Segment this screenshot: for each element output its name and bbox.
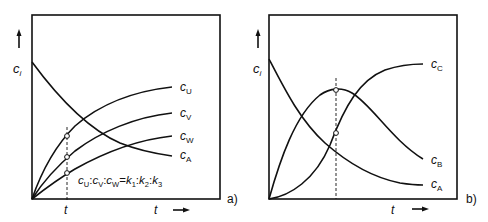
- curve-cA: [269, 59, 423, 185]
- label-cC: cC: [431, 57, 443, 73]
- x-axis-label: t: [154, 203, 158, 217]
- panel-b: ci cC cB cA t b): [253, 15, 477, 217]
- curve-cC: [269, 64, 423, 199]
- marker-cC-inflection: [334, 131, 339, 136]
- marker-cU: [65, 134, 70, 139]
- label-cA: cA: [180, 148, 192, 164]
- y-axis-arrow-icon: [256, 29, 261, 48]
- ratio-formula: cU:cV:cW=k1:k2:k3: [78, 174, 162, 189]
- panel-b-tag: b): [466, 192, 477, 206]
- curve-cW: [32, 136, 172, 199]
- panel-a-tag: a): [227, 192, 238, 206]
- curve-cA: [32, 62, 172, 156]
- label-cA: cA: [431, 177, 443, 193]
- x-axis-arrow-icon: [173, 208, 190, 213]
- x-axis-arrow-icon: [412, 207, 429, 212]
- marker-time-label: t: [64, 203, 68, 217]
- marker-cW: [65, 171, 70, 176]
- y-axis-label: ci: [253, 61, 262, 78]
- x-axis-label: t: [391, 203, 395, 217]
- label-cU: cU: [180, 80, 192, 96]
- panel-b-frame: [269, 15, 457, 199]
- panel-a-frame: [32, 15, 220, 199]
- marker-cV: [65, 155, 70, 160]
- label-cB: cB: [431, 153, 442, 169]
- label-cW: cW: [180, 129, 194, 145]
- label-cV: cV: [180, 106, 192, 122]
- kinetics-diagram: ci cU cV cW cA cU:cV:cW=k1:k2:k3 t t a): [0, 0, 488, 222]
- marker-cB-max: [334, 88, 339, 93]
- panel-a: ci cU cV cW cA cU:cV:cW=k1:k2:k3 t t a): [13, 15, 238, 217]
- y-axis-label: ci: [13, 61, 22, 78]
- y-axis-arrow-icon: [17, 29, 22, 48]
